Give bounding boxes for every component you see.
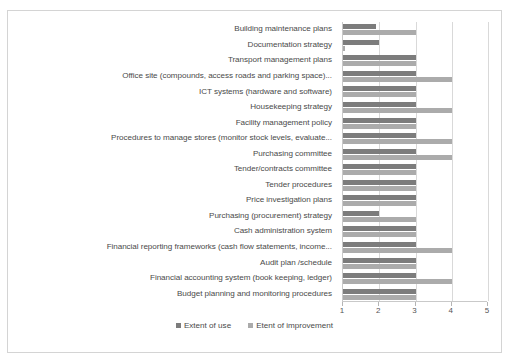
legend-item[interactable]: Etent of improvement	[248, 321, 333, 330]
bar-extent-of-use	[343, 24, 376, 29]
category-label-row: Purchasing (procurement) strategy	[8, 209, 336, 225]
chart-container: Building maintenance plansDocumentation …	[7, 10, 502, 353]
bar-extent-of-improvement	[343, 279, 452, 284]
category-label-row: Housekeeping strategy	[8, 100, 336, 116]
bar-group	[343, 286, 487, 302]
category-label-row: Financial reporting frameworks (cash flo…	[8, 240, 336, 256]
bar-group	[343, 100, 487, 116]
category-label: Transport management plans	[228, 56, 332, 65]
category-label-row: Office site (compounds, access roads and…	[8, 69, 336, 85]
bar-group	[343, 53, 487, 69]
bar-extent-of-use	[343, 211, 379, 216]
bar-group	[343, 115, 487, 131]
bar-extent-of-improvement	[343, 77, 452, 82]
bar-group	[343, 224, 487, 240]
category-label: Procedures to manage stores (monitor sto…	[111, 134, 332, 143]
bar-group	[343, 69, 487, 85]
axis-tick-label: 5	[485, 306, 489, 315]
category-label: Facility management policy	[236, 119, 332, 128]
category-label: Financial accounting system (book keepin…	[150, 274, 332, 283]
category-label-row: Price investigation plans	[8, 193, 336, 209]
category-label-row: Budget planning and monitoring procedure…	[8, 286, 336, 302]
bar-group	[343, 162, 487, 178]
bar-extent-of-use	[343, 86, 416, 91]
chart-legend: Extent of useEtent of improvement	[8, 321, 501, 330]
bar-extent-of-use	[343, 273, 416, 278]
bar-group	[343, 193, 487, 209]
category-label-row: Tender/contracts committee	[8, 162, 336, 178]
bar-extent-of-use	[343, 180, 416, 185]
bar-extent-of-improvement	[343, 92, 416, 97]
gridline	[488, 22, 489, 301]
category-label-row: Cash administration system	[8, 224, 336, 240]
category-label-row: ICT systems (hardware and software)	[8, 84, 336, 100]
bar-group	[343, 131, 487, 147]
bar-extent-of-improvement	[343, 139, 452, 144]
category-label: Office site (compounds, access roads and…	[122, 72, 332, 81]
bar-extent-of-improvement	[343, 124, 416, 129]
bar-extent-of-improvement	[343, 232, 416, 237]
category-label-row: Documentation strategy	[8, 38, 336, 54]
category-label-row: Building maintenance plans	[8, 22, 336, 38]
bar-group	[343, 240, 487, 256]
bar-extent-of-improvement	[343, 30, 416, 35]
bar-extent-of-use	[343, 242, 416, 247]
category-label: Building maintenance plans	[234, 25, 332, 34]
bar-extent-of-improvement	[343, 61, 416, 66]
bar-extent-of-use	[343, 289, 416, 294]
category-label: Budget planning and monitoring procedure…	[177, 290, 332, 299]
axis-tick-label: 1	[340, 306, 344, 315]
bar-group	[343, 209, 487, 225]
bar-extent-of-use	[343, 164, 416, 169]
bar-extent-of-improvement	[343, 108, 452, 113]
category-label-row: Financial accounting system (book keepin…	[8, 271, 336, 287]
bar-extent-of-use	[343, 149, 416, 154]
bar-extent-of-improvement	[343, 248, 452, 253]
category-label: Tender procedures	[265, 181, 332, 190]
bar-extent-of-improvement	[343, 217, 416, 222]
bar-extent-of-improvement	[343, 264, 416, 269]
category-label-row: Facility management policy	[8, 115, 336, 131]
bar-extent-of-use	[343, 258, 416, 263]
plot-area	[342, 22, 487, 302]
category-label: Housekeeping strategy	[250, 103, 332, 112]
bar-group	[343, 178, 487, 194]
bar-group	[343, 255, 487, 271]
category-label: Purchasing (procurement) strategy	[209, 212, 332, 221]
category-label-row: Transport management plans	[8, 53, 336, 69]
category-label-row: Purchasing committee	[8, 146, 336, 162]
bar-extent-of-use	[343, 133, 416, 138]
bar-group	[343, 22, 487, 38]
legend-item[interactable]: Extent of use	[176, 321, 231, 330]
bar-extent-of-improvement	[343, 46, 345, 51]
bar-extent-of-improvement	[343, 295, 416, 300]
bar-extent-of-use	[343, 40, 379, 45]
category-label: ICT systems (hardware and software)	[199, 88, 332, 97]
category-label: Financial reporting frameworks (cash flo…	[107, 243, 332, 252]
category-axis-labels: Building maintenance plansDocumentation …	[8, 22, 336, 302]
legend-swatch-icon	[176, 323, 181, 328]
category-label: Price investigation plans	[246, 196, 332, 205]
bar-extent-of-use	[343, 55, 416, 60]
legend-swatch-icon	[248, 323, 253, 328]
bar-extent-of-use	[343, 118, 416, 123]
bar-extent-of-use	[343, 195, 416, 200]
bar-group	[343, 146, 487, 162]
category-label-row: Tender procedures	[8, 177, 336, 193]
value-axis: 12345	[342, 302, 487, 320]
category-label-row: Audit plan /schedule	[8, 255, 336, 271]
bar-extent-of-use	[343, 71, 416, 76]
bar-extent-of-use	[343, 102, 416, 107]
axis-tick-label: 2	[376, 306, 380, 315]
category-label: Cash administration system	[234, 227, 332, 236]
bar-group	[343, 38, 487, 54]
chart-plot-wrapper: Building maintenance plansDocumentation …	[8, 11, 501, 352]
legend-label: Extent of use	[184, 321, 231, 330]
axis-tick-label: 3	[412, 306, 416, 315]
category-label-row: Procedures to manage stores (monitor sto…	[8, 131, 336, 147]
category-label: Documentation strategy	[248, 41, 332, 50]
bar-extent-of-improvement	[343, 201, 416, 206]
axis-tick-label: 4	[449, 306, 453, 315]
category-label: Audit plan /schedule	[260, 259, 332, 268]
bar-extent-of-improvement	[343, 186, 416, 191]
